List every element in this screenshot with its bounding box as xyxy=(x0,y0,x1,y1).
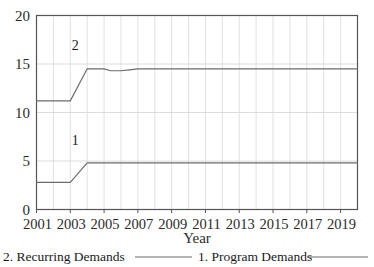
y-tick-label-5: 5 xyxy=(23,153,31,169)
line-chart: 05101520 2001200320052007200920112013201… xyxy=(0,0,374,267)
x-tick-label-2001: 2001 xyxy=(23,216,52,232)
x-tick-label-2015: 2015 xyxy=(260,216,289,232)
x-axis-title: Year xyxy=(183,230,211,246)
y-tick-label-10: 10 xyxy=(15,105,30,121)
chart-figure: 05101520 2001200320052007200920112013201… xyxy=(0,0,374,267)
y-tick-label-15: 15 xyxy=(15,56,30,72)
x-tick-label-2007: 2007 xyxy=(124,216,153,232)
x-tick-label-2017: 2017 xyxy=(293,216,322,232)
legend-label-program-demands: 1. Program Demands xyxy=(198,249,312,264)
series-tag-1: 1 xyxy=(72,133,79,148)
legend-label-recurring-demands: 2. Recurring Demands xyxy=(3,249,125,264)
x-tick-label-2003: 2003 xyxy=(57,216,86,232)
y-tick-label-20: 20 xyxy=(15,8,30,24)
x-tick-label-2005: 2005 xyxy=(91,216,120,232)
series-tag-2: 2 xyxy=(72,38,79,53)
x-tick-label-2013: 2013 xyxy=(226,216,255,232)
x-tick-label-2019: 2019 xyxy=(327,216,356,232)
